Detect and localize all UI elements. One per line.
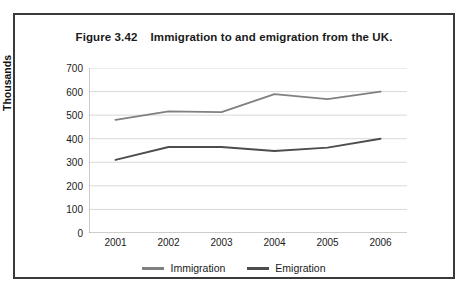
legend-swatch — [247, 267, 269, 270]
legend-label: Immigration — [170, 262, 225, 274]
x-tick-label: 2003 — [210, 237, 232, 248]
y-tick-label: 700 — [49, 63, 83, 74]
x-tick-label: 2001 — [104, 237, 126, 248]
x-tick-label: 2002 — [157, 237, 179, 248]
legend-swatch — [142, 267, 164, 270]
x-tick-label: 2004 — [263, 237, 285, 248]
x-tick-label: 2006 — [369, 237, 391, 248]
y-axis-tick-labels: 0100200300400500600700 — [45, 68, 83, 233]
plot-area — [89, 68, 407, 233]
legend-entry-emigration: Emigration — [247, 262, 325, 274]
legend-label: Emigration — [275, 262, 325, 274]
y-tick-label: 100 — [49, 204, 83, 215]
series-line-immigration — [116, 92, 381, 120]
chart-legend: ImmigrationEmigration — [15, 262, 453, 274]
y-tick-label: 500 — [49, 110, 83, 121]
y-tick-label: 200 — [49, 180, 83, 191]
data-series-layer — [89, 68, 407, 233]
x-tick-label: 2005 — [316, 237, 338, 248]
y-tick-label: 0 — [49, 228, 83, 239]
figure-title: Figure 3.42 Immigration to and emigratio… — [15, 31, 453, 43]
y-tick-label: 400 — [49, 133, 83, 144]
x-axis-tick-labels: 200120022003200420052006 — [89, 237, 407, 253]
y-tick-label: 300 — [49, 157, 83, 168]
legend-entry-immigration: Immigration — [142, 262, 225, 274]
figure-frame: Figure 3.42 Immigration to and emigratio… — [13, 13, 455, 279]
y-tick-label: 600 — [49, 86, 83, 97]
y-axis-title: Thousands — [1, 55, 13, 111]
series-line-emigration — [116, 139, 381, 160]
